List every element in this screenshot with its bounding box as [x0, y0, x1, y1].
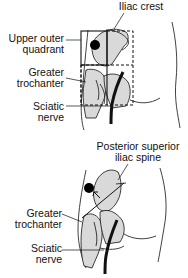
label-iliac-crest: Iliac crest: [111, 1, 171, 12]
label-psis-line2: iliac spine: [88, 152, 188, 163]
label-upper-outer-quadrant-line2: quadrant: [0, 44, 64, 55]
injection-site-top: [90, 40, 100, 50]
label-greater-trochanter-bottom-line2: trochanter: [0, 219, 62, 230]
label-sciatic-nerve-top-line2: nerve: [0, 112, 64, 123]
injection-site-bottom: [84, 183, 94, 193]
label-sciatic-nerve-bottom-line2: nerve: [0, 254, 62, 265]
label-greater-trochanter-top-line2: trochanter: [0, 78, 64, 89]
top-hip-illustration: [81, 22, 180, 130]
